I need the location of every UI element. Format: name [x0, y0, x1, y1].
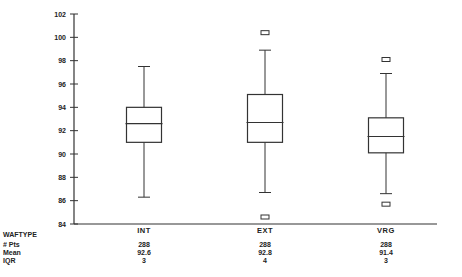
xaxis-title: WAFTYPE: [3, 231, 37, 238]
y-tick-label: 94: [58, 104, 66, 111]
mean-value: 91.4: [379, 249, 393, 256]
mean-value: 92.8: [258, 249, 272, 256]
iqr-value: 3: [384, 257, 388, 264]
category-label-ext: EXT: [257, 226, 273, 235]
y-tick-label: 96: [58, 81, 66, 88]
row-label-iqr: IQR: [3, 257, 15, 265]
pts-value: 288: [259, 241, 271, 248]
mean-value: 92.6: [137, 249, 151, 256]
box-plot: 1021009896949290888684 WAFTYPE # Pts Mea…: [0, 0, 462, 277]
iqr-box: [248, 95, 283, 143]
outlier-marker: [382, 202, 390, 206]
y-tick-label: 102: [54, 11, 66, 18]
box-int: [126, 67, 163, 198]
category-label-int: INT: [137, 226, 151, 235]
outlier-marker: [261, 215, 269, 219]
box-vrg: [368, 58, 405, 207]
box-series: [126, 31, 405, 219]
outlier-marker: [382, 58, 390, 62]
y-tick-label: 88: [58, 174, 66, 181]
iqr-box: [369, 118, 404, 153]
y-tick-label: 86: [58, 197, 66, 204]
outlier-marker: [261, 31, 269, 35]
row-label-mean: Mean: [3, 249, 21, 256]
stats-table: WAFTYPE # Pts Mean IQR INT28892.63EXT288…: [3, 226, 395, 265]
box-ext: [247, 31, 284, 219]
y-tick-label: 100: [54, 34, 66, 41]
y-tick-label: 84: [58, 221, 66, 228]
y-tick-label: 98: [58, 57, 66, 64]
iqr-value: 3: [142, 257, 146, 264]
y-tick-label: 92: [58, 127, 66, 134]
pts-value: 288: [138, 241, 150, 248]
category-label-vrg: VRG: [377, 226, 395, 235]
y-tick-label: 90: [58, 151, 66, 158]
iqr-box: [127, 107, 162, 142]
iqr-value: 4: [263, 257, 267, 264]
row-label-pts: # Pts: [3, 241, 20, 248]
pts-value: 288: [380, 241, 392, 248]
y-axis: 1021009896949290888684: [54, 11, 78, 228]
